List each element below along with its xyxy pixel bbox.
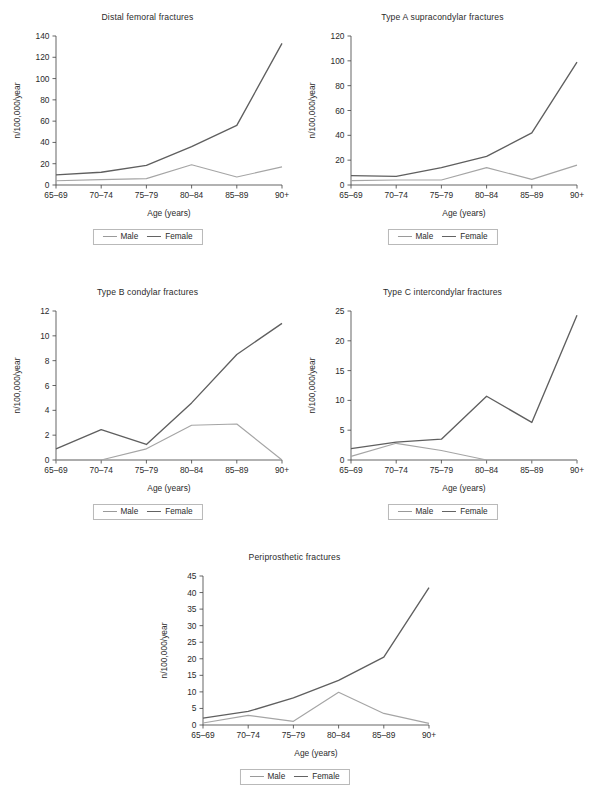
- x-axis-tick-label: 90+: [570, 190, 584, 200]
- legend-item-female: Female: [147, 507, 192, 516]
- chart-legend: Male Female: [387, 504, 497, 520]
- y-axis-tick-label: 80: [40, 95, 50, 105]
- chart-title: Type B condylar fractures: [0, 287, 295, 297]
- y-axis-tick-label: 80: [335, 81, 345, 91]
- figure-panel-grid: Distal femoral fractures 020406080100120…: [0, 0, 590, 805]
- y-axis-tick-label: 15: [335, 366, 345, 376]
- x-axis-tick-label: 85–89: [520, 190, 544, 200]
- chart-plot-type-c-intercondylar-fractures: 051015202565–6970–7475–7980–8485–8990+Ag…: [295, 299, 590, 499]
- legend-label-female: Female: [312, 772, 339, 781]
- legend-item-male: Male: [249, 772, 285, 781]
- y-axis-tick-label: 5: [192, 703, 197, 713]
- x-axis-tick-label: 65–69: [191, 730, 215, 740]
- y-axis-tick-label: 20: [40, 159, 50, 169]
- chart-panel-type-b-condylar-fractures: Type B condylar fractures 02468101265–69…: [0, 275, 295, 540]
- chart-panel-distal-femoral-fractures: Distal femoral fractures 020406080100120…: [0, 0, 295, 265]
- legend-line-female-icon: [147, 511, 161, 512]
- legend-line-male-icon: [102, 511, 116, 512]
- legend-label-male: Male: [120, 507, 138, 516]
- y-axis-tick-label: 45: [187, 571, 197, 581]
- x-axis-tick-label: 75–79: [430, 465, 454, 475]
- y-axis-tick-label: 2: [45, 430, 50, 440]
- chart-legend: Male Female: [92, 504, 202, 520]
- series-line-female: [56, 323, 282, 448]
- y-axis-tick-label: 120: [36, 52, 50, 62]
- series-line-male: [351, 443, 577, 460]
- x-axis-tick-label: 65–69: [339, 465, 363, 475]
- y-axis-tick-label: 100: [36, 74, 50, 84]
- y-axis-tick-label: 6: [45, 381, 50, 391]
- x-axis-tick-label: 90+: [570, 465, 584, 475]
- series-line-male: [351, 165, 577, 181]
- chart-panel-type-c-intercondylar-fractures: Type C intercondylar fractures 051015202…: [295, 275, 590, 540]
- x-axis-tick-label: 90+: [422, 730, 436, 740]
- x-axis-label: Age (years): [442, 208, 485, 218]
- legend-line-female-icon: [442, 236, 456, 237]
- y-axis-tick-label: 10: [40, 331, 50, 341]
- legend-label-female: Female: [165, 232, 192, 241]
- y-axis-tick-label: 10: [335, 395, 345, 405]
- chart-plot-distal-femoral-fractures: 02040608010012014065–6970–7475–7980–8485…: [0, 24, 295, 224]
- legend-label-male: Male: [415, 507, 433, 516]
- y-axis-tick-label: 20: [187, 654, 197, 664]
- y-axis-tick-label: 5: [340, 425, 345, 435]
- y-axis-tick-label: 20: [335, 155, 345, 165]
- y-axis-tick-label: 40: [40, 137, 50, 147]
- y-axis-tick-label: 40: [335, 130, 345, 140]
- y-axis-tick-label: 0: [45, 180, 50, 190]
- y-axis-tick-label: 0: [192, 720, 197, 730]
- series-line-female: [203, 588, 429, 718]
- x-axis-tick-label: 80–84: [475, 190, 499, 200]
- y-axis-tick-label: 8: [45, 356, 50, 366]
- x-axis-label: Age (years): [294, 748, 337, 758]
- y-axis-tick-label: 30: [187, 621, 197, 631]
- x-axis-tick-label: 70–74: [385, 190, 409, 200]
- x-axis-tick-label: 85–89: [225, 190, 249, 200]
- legend-label-female: Female: [460, 507, 487, 516]
- chart-plot-type-b-condylar-fractures: 02468101265–6970–7475–7980–8485–8990+Age…: [0, 299, 295, 499]
- x-axis-tick-label: 65–69: [44, 465, 68, 475]
- series-line-female: [351, 315, 577, 449]
- series-line-male: [203, 692, 429, 723]
- x-axis-tick-label: 80–84: [327, 730, 351, 740]
- chart-title: Periprosthetic fractures: [147, 552, 442, 562]
- chart-legend: Male Female: [239, 769, 349, 785]
- y-axis-label: n/100,000/year: [159, 622, 169, 678]
- y-axis-tick-label: 25: [335, 306, 345, 316]
- x-axis-tick-label: 75–79: [135, 465, 159, 475]
- legend-item-male: Male: [397, 507, 433, 516]
- y-axis-tick-label: 120: [331, 31, 345, 41]
- y-axis-tick-label: 140: [36, 31, 50, 41]
- chart-plot-type-a-supracondylar-fractures: 02040608010012065–6970–7475–7980–8485–89…: [295, 24, 590, 224]
- legend-label-male: Male: [415, 232, 433, 241]
- y-axis-tick-label: 10: [187, 687, 197, 697]
- x-axis-tick-label: 90+: [275, 465, 289, 475]
- x-axis-tick-label: 85–89: [225, 465, 249, 475]
- y-axis-label: n/100,000/year: [12, 82, 22, 138]
- x-axis-label: Age (years): [147, 208, 190, 218]
- x-axis-tick-label: 65–69: [339, 190, 363, 200]
- legend-item-male: Male: [397, 232, 433, 241]
- legend-line-female-icon: [442, 511, 456, 512]
- chart-title: Distal femoral fractures: [0, 12, 295, 22]
- x-axis-tick-label: 70–74: [237, 730, 261, 740]
- y-axis-tick-label: 0: [340, 180, 345, 190]
- x-axis-tick-label: 70–74: [385, 465, 409, 475]
- y-axis-tick-label: 0: [45, 455, 50, 465]
- x-axis-tick-label: 80–84: [475, 465, 499, 475]
- y-axis-label: n/100,000/year: [307, 82, 317, 138]
- x-axis-tick-label: 65–69: [44, 190, 68, 200]
- chart-legend: Male Female: [92, 229, 202, 245]
- chart-panel-periprosthetic-fractures: Periprosthetic fractures 051015202530354…: [147, 540, 442, 805]
- x-axis-tick-label: 75–79: [135, 190, 159, 200]
- series-line-male: [56, 424, 282, 460]
- series-line-female: [56, 43, 282, 174]
- x-axis-tick-label: 75–79: [430, 190, 454, 200]
- chart-legend: Male Female: [387, 229, 497, 245]
- x-axis-tick-label: 75–79: [282, 730, 306, 740]
- y-axis-tick-label: 40: [187, 588, 197, 598]
- y-axis-tick-label: 100: [331, 56, 345, 66]
- y-axis-tick-label: 12: [40, 306, 50, 316]
- chart-title: Type C intercondylar fractures: [295, 287, 590, 297]
- legend-line-male-icon: [397, 236, 411, 237]
